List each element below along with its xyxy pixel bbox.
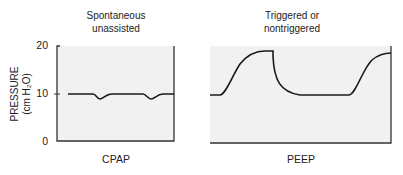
chart-canvas <box>0 0 403 175</box>
peep-panel <box>210 46 391 143</box>
cpap-x-label: CPAP <box>76 153 156 165</box>
peep-x-label: PEEP <box>261 153 341 165</box>
cpap-panel <box>54 46 174 141</box>
